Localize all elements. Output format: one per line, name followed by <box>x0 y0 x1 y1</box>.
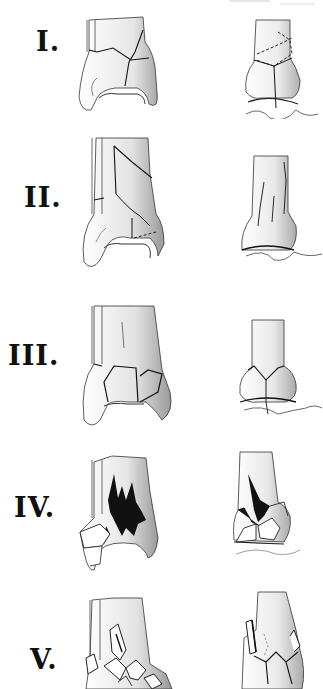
fracture-type-4-row: IV. <box>0 440 323 580</box>
anterior-view-illustration <box>76 452 176 577</box>
fracture-type-2-row: II. <box>0 130 323 290</box>
type-label: III. <box>8 340 59 371</box>
anterior-view-illustration <box>78 134 168 274</box>
type-label: V. <box>30 644 58 675</box>
fracture-type-5-row: V. <box>0 580 323 689</box>
type-label: IV. <box>14 492 55 523</box>
fracture-type-3-row: III. <box>0 290 323 440</box>
anterior-view-illustration <box>80 594 180 689</box>
anterior-view-illustration <box>78 302 178 432</box>
fracture-type-1-row: I. <box>0 0 323 130</box>
anterior-view-illustration <box>75 12 165 117</box>
type-label: I. <box>36 26 60 57</box>
type-label: II. <box>24 182 62 213</box>
lateral-view-illustration <box>230 450 320 560</box>
lateral-view-illustration <box>240 590 320 689</box>
lateral-view-illustration <box>240 14 320 119</box>
lateral-view-illustration <box>238 152 323 267</box>
lateral-view-illustration <box>238 318 323 418</box>
